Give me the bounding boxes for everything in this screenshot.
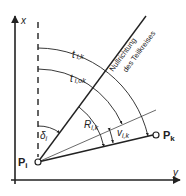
y-axis-label: y xyxy=(172,167,179,178)
point-pi-label: Pi xyxy=(18,156,28,170)
label-r-ik: Ri,k xyxy=(84,119,99,131)
point-pk-label: Pk xyxy=(163,129,175,143)
x-axis-label: x xyxy=(20,15,27,26)
direction-angle-diagram: x y Pi Pk ti,k ti,ok δi Ri,k vi,k Nullri… xyxy=(0,0,186,196)
point-pi xyxy=(35,159,41,165)
point-pk xyxy=(153,132,159,138)
label-delta-i: δi xyxy=(40,130,48,142)
oriented-direction-line xyxy=(38,110,156,162)
diagram-canvas: x y Pi Pk ti,k ti,ok δi Ri,k vi,k Nullri… xyxy=(0,0,186,196)
label-t-ik: ti,k xyxy=(72,49,84,60)
label-t-iok: ti,ok xyxy=(70,73,86,84)
arc-v-ik xyxy=(110,131,113,143)
label-v-ik: vi,k xyxy=(117,127,130,139)
